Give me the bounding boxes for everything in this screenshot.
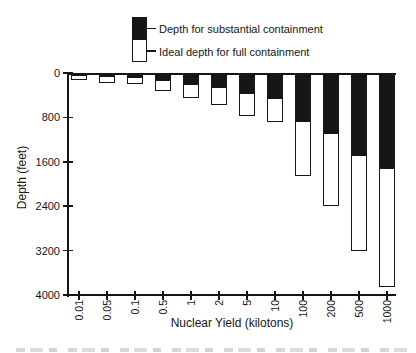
- x-axis-tick: [78, 291, 80, 300]
- depth-bar: [295, 73, 311, 176]
- depth-bar: [323, 73, 339, 206]
- y-tick-label: 800: [18, 111, 60, 123]
- depth-bar: [267, 73, 283, 122]
- bar-substantial-segment: [100, 74, 114, 77]
- y-axis-tick: [63, 117, 73, 119]
- bar-substantial-segment: [268, 74, 282, 99]
- depth-bar: [99, 73, 115, 83]
- containment-depth-figure: Depth for substantial containment Ideal …: [0, 0, 416, 353]
- x-tick-label: 500: [354, 300, 365, 340]
- x-axis-tick: [274, 291, 276, 300]
- x-axis-tick: [302, 291, 304, 300]
- x-tick-label: 0.1: [130, 300, 141, 340]
- x-tick-label: 1000: [382, 300, 393, 340]
- bar-substantial-segment: [212, 74, 226, 88]
- x-tick-label: 100: [298, 300, 309, 340]
- bar-substantial-segment: [352, 74, 366, 156]
- depth-bar: [127, 73, 143, 84]
- y-tick-label: 1600: [18, 156, 60, 168]
- legend-swatch-black-segment: [133, 18, 146, 40]
- bar-substantial-segment: [296, 74, 310, 122]
- x-tick-label: 1: [186, 300, 197, 340]
- x-tick-label: 5: [242, 300, 253, 340]
- x-axis-tick: [386, 291, 388, 300]
- y-axis-tick: [63, 205, 73, 207]
- bar-substantial-segment: [380, 74, 394, 169]
- x-tick-label: 0.5: [158, 300, 169, 340]
- x-axis-tick: [106, 291, 108, 300]
- x-axis-title: Nuclear Yield (kilotons): [68, 316, 396, 330]
- y-tick-label: 3200: [18, 245, 60, 257]
- x-axis-tick: [134, 291, 136, 300]
- depth-bar: [379, 73, 395, 287]
- x-axis-tick: [218, 291, 220, 300]
- y-tick-label: 0: [18, 67, 60, 79]
- x-tick-label: 10: [270, 300, 281, 340]
- x-tick-label: 200: [326, 300, 337, 340]
- y-tick-label: 4000: [18, 289, 60, 301]
- legend-tick-ideal: [147, 50, 156, 52]
- depth-bar: [211, 73, 227, 105]
- x-axis-tick: [162, 291, 164, 300]
- x-axis-line: [66, 294, 396, 296]
- y-axis-tick: [63, 294, 73, 296]
- x-axis-tick: [190, 291, 192, 300]
- legend-tick-substantial: [147, 28, 156, 30]
- bar-substantial-segment: [128, 74, 142, 78]
- y-axis-line: [67, 72, 69, 297]
- clipped-caption-sliver: [16, 348, 408, 352]
- bar-substantial-segment: [72, 74, 86, 76]
- bar-substantial-segment: [156, 74, 170, 81]
- x-axis-tick: [330, 291, 332, 300]
- x-axis-tick: [246, 291, 248, 300]
- zero-depth-surface-line: [67, 73, 396, 75]
- x-axis-tick: [358, 291, 360, 300]
- depth-bar: [183, 73, 199, 98]
- bar-substantial-segment: [184, 74, 198, 85]
- x-tick-label: 0.01: [74, 300, 85, 340]
- depth-bar: [239, 73, 255, 116]
- legend-label-substantial: Depth for substantial containment: [159, 23, 323, 35]
- depth-bar: [155, 73, 171, 91]
- x-tick-label: 0.05: [102, 300, 113, 340]
- legend-label-ideal: Ideal depth for full containment: [159, 46, 309, 58]
- y-axis-tick: [63, 250, 73, 252]
- depth-bar: [351, 73, 367, 251]
- bar-substantial-segment: [240, 74, 254, 94]
- x-tick-label: 2: [214, 300, 225, 340]
- depth-bar: [71, 73, 87, 80]
- legend-swatch: [132, 17, 147, 62]
- y-tick-label: 2400: [18, 200, 60, 212]
- bar-substantial-segment: [324, 74, 338, 134]
- y-axis-tick: [63, 161, 73, 163]
